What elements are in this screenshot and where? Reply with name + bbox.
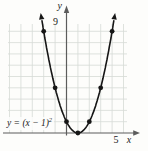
x-tick-label-5: 5 <box>111 134 121 145</box>
y-axis-label: y <box>48 0 62 11</box>
y-tick-label-9: 9 <box>44 16 58 27</box>
equation-label: y = (x − 1)2 <box>5 117 54 130</box>
data-point <box>110 29 115 34</box>
data-point <box>41 29 46 34</box>
data-point <box>98 85 103 90</box>
data-point <box>53 85 58 90</box>
data-point <box>64 119 69 124</box>
y-axis-arrow-icon <box>64 6 69 14</box>
data-point <box>76 131 81 136</box>
x-axis-label: x <box>124 134 134 145</box>
equation-text: y = (x − 1) <box>7 118 49 128</box>
data-point <box>87 119 92 124</box>
parabola-graph-figure: y 9 5 x y = (x − 1)2 <box>0 0 148 151</box>
x-axis-arrow-icon <box>133 130 140 135</box>
equation-exponent: 2 <box>49 116 52 123</box>
curve-arrow-right-icon <box>111 13 117 20</box>
